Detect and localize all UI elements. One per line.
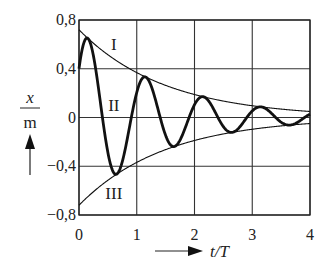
y-label-numerator: x <box>25 88 34 107</box>
x-tick-label: 3 <box>248 226 256 243</box>
arrow-up-icon <box>25 134 35 149</box>
x-label: t/T <box>210 242 230 261</box>
damped-oscillation-chart: 0,80,40−0,4−0,8 01234 IIIIII x m t/T <box>0 0 329 274</box>
y-axis-label: x m <box>20 88 40 175</box>
y-tick-label: −0,4 <box>47 157 76 174</box>
y-tick-label: −0,8 <box>47 206 76 223</box>
curve-label: III <box>105 184 122 203</box>
y-tick-label: 0 <box>68 109 76 126</box>
y-tick-labels: 0,80,40−0,4−0,8 <box>47 11 76 223</box>
arrow-right-icon <box>188 246 203 256</box>
curve-label: II <box>108 96 120 115</box>
x-axis-label: t/T <box>155 242 230 261</box>
y-tick-label: 0,8 <box>56 11 76 28</box>
curve-label: I <box>111 35 117 54</box>
x-tick-label: 0 <box>75 226 83 243</box>
x-tick-label: 2 <box>191 226 199 243</box>
curve-annotations: IIIIII <box>105 35 122 203</box>
x-tick-label: 4 <box>306 226 314 243</box>
x-tick-labels: 01234 <box>75 226 314 243</box>
y-tick-label: 0,4 <box>56 60 76 77</box>
x-tick-label: 1 <box>133 226 141 243</box>
y-label-denominator: m <box>23 113 36 132</box>
